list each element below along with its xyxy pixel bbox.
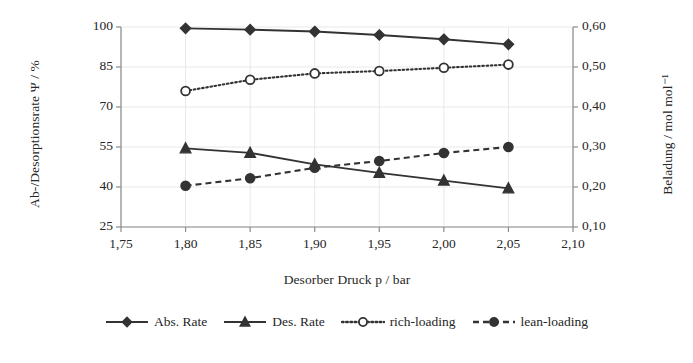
marker-circle: [181, 87, 190, 96]
marker-circle: [310, 69, 319, 78]
chart-legend: Abs. RateDes. Raterich-loadinglean-loadi…: [0, 305, 693, 339]
marker-diamond: [310, 26, 320, 36]
legend-marker-diamond-filled-icon: [105, 314, 149, 330]
chart-container: Ab-/Desorptionsrate Ψ / % Beladung / mol…: [0, 0, 693, 363]
series-line: [186, 65, 509, 91]
gridlines: [121, 27, 573, 227]
legend-label: Abs. Rate: [154, 314, 207, 330]
series-line: [186, 147, 509, 186]
marker-circle: [375, 67, 384, 76]
marker-diamond: [122, 317, 132, 327]
legend-label: rich-loading: [390, 314, 456, 330]
marker-circle: [504, 143, 513, 152]
legend-item-abs-rate[interactable]: Abs. Rate: [105, 314, 207, 330]
legend-item-rich-loading[interactable]: rich-loading: [341, 314, 456, 330]
legend-marker-triangle-filled-icon: [223, 314, 267, 330]
series-rich-loading: [181, 60, 513, 95]
legend-item-lean-loading[interactable]: lean-loading: [472, 314, 588, 330]
marker-diamond: [245, 24, 255, 34]
marker-circle: [310, 163, 319, 172]
legend-item-des-rate[interactable]: Des. Rate: [223, 314, 324, 330]
legend-label: lean-loading: [521, 314, 588, 330]
marker-circle: [439, 149, 448, 158]
legend-marker-circle-filled-icon: [472, 314, 516, 330]
marker-circle: [490, 318, 498, 326]
legend-marker-circle-open-icon: [341, 314, 385, 330]
legend-label: Des. Rate: [272, 314, 324, 330]
marker-circle: [246, 75, 255, 84]
marker-circle: [246, 174, 255, 183]
marker-diamond: [503, 39, 513, 49]
marker-circle: [181, 181, 190, 190]
series-line: [186, 28, 509, 44]
marker-circle: [439, 63, 448, 72]
series-line: [186, 148, 509, 188]
marker-circle: [359, 318, 367, 326]
marker-diamond: [374, 30, 384, 40]
marker-circle: [375, 157, 384, 166]
marker-diamond: [439, 34, 449, 44]
marker-diamond: [180, 23, 190, 33]
marker-circle: [504, 60, 513, 69]
